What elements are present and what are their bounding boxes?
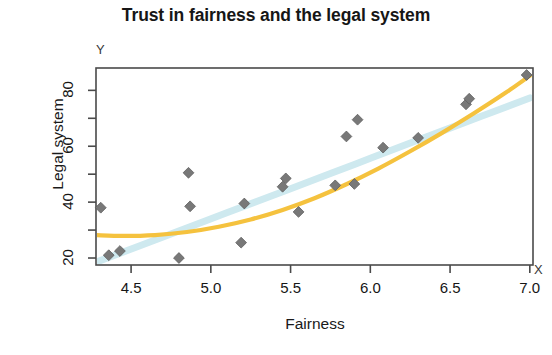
x-tick-label: 5.5 xyxy=(268,279,314,296)
fit-curve-linear-fit-band xyxy=(96,98,530,262)
chart-figure: Trust in fairness and the legal system Y… xyxy=(0,0,552,355)
y-tick-label: 60 xyxy=(59,129,76,163)
data-point-marker xyxy=(185,201,196,212)
data-point-marker xyxy=(95,202,106,213)
data-point-marker xyxy=(352,114,363,125)
y-tick-label: 40 xyxy=(59,185,76,219)
data-point-marker xyxy=(341,131,352,142)
data-point-marker xyxy=(174,253,185,264)
plot-area xyxy=(0,0,552,355)
data-point-marker xyxy=(236,237,247,248)
y-tick-label: 20 xyxy=(59,241,76,275)
x-tick-label: 4.5 xyxy=(108,279,154,296)
x-tick-label: 6.5 xyxy=(427,279,473,296)
x-tick-label: 7.0 xyxy=(507,279,552,296)
x-tick-label: 5.0 xyxy=(188,279,234,296)
data-point-marker xyxy=(293,207,304,218)
y-tick-label: 80 xyxy=(59,73,76,107)
x-tick-label: 6.0 xyxy=(347,279,393,296)
data-point-marker xyxy=(183,167,194,178)
